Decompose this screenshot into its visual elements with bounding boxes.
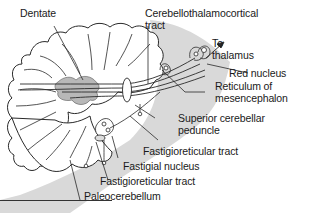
label-to-thalamus: To	[212, 37, 223, 49]
superior-cerebellar-peduncle	[123, 78, 132, 102]
label-superior-cerebellar-peduncle-2: peduncle	[178, 124, 220, 136]
label-superior-cerebellar-peduncle: Superior cerebellar	[178, 112, 265, 124]
label-reticulum-2: mesencephalon	[215, 92, 288, 104]
label-dentate: Dentate	[20, 7, 56, 19]
label-red-nucleus: Red nucleus	[229, 67, 286, 79]
label-paleocerebellum: Paleocerebellum	[84, 190, 161, 202]
label-fastigial-nucleus: Fastigial nucleus	[123, 160, 200, 172]
label-cerebellothalamocortical: Cerebellothalamocortical	[145, 7, 258, 19]
label-fastigioreticular-tract-upper: Fastigioreticular tract	[143, 145, 238, 157]
label-cerebellothalamocortical-2: tract	[145, 19, 165, 31]
label-fastigioreticular-tract-lower: Fastigioreticular tract	[100, 175, 195, 187]
label-to-thalamus-2: thalamus	[212, 49, 254, 61]
label-reticulum: Reticulum of	[215, 80, 272, 92]
